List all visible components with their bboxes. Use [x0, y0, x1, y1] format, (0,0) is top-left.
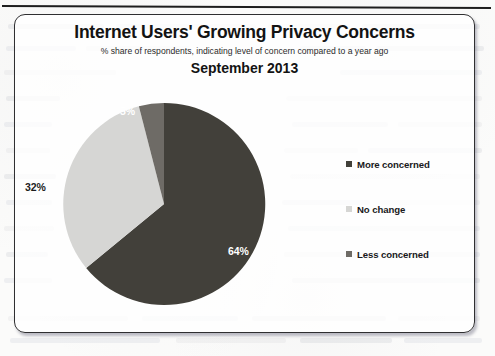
pie-svg	[62, 102, 266, 306]
legend-swatch-less-concerned	[346, 251, 352, 257]
scanned-page: Internet Users' Growing Privacy Concerns…	[0, 0, 495, 356]
legend-swatch-more-concerned	[346, 161, 352, 167]
legend-label-no-change: No change	[357, 204, 405, 215]
legend-item-less-concerned: Less concerned	[346, 248, 466, 260]
pie-label-no-change: 32%	[25, 181, 46, 193]
chart-period: September 2013	[14, 59, 475, 77]
legend-label-less-concerned: Less concerned	[357, 249, 429, 260]
page-top-rule	[2, 5, 491, 9]
legend-item-no-change: No change	[346, 203, 466, 215]
pie-label-more-concerned: 64%	[228, 245, 249, 257]
legend-item-more-concerned: More concerned	[346, 158, 466, 170]
title-block: Internet Users' Growing Privacy Concerns…	[14, 22, 475, 77]
chart-subtitle: % share of respondents, indicating level…	[14, 45, 475, 58]
legend-swatch-no-change	[346, 206, 352, 212]
chart-legend: More concerned No change Less concerned	[346, 158, 466, 260]
chart-title: Internet Users' Growing Privacy Concerns	[14, 22, 475, 43]
pie-label-less-concerned: 5%	[120, 105, 135, 117]
pie-chart: 64% 32% 5%	[62, 102, 266, 306]
legend-label-more-concerned: More concerned	[357, 159, 430, 170]
